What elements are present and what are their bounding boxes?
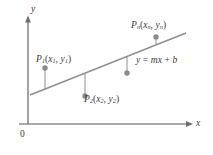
point-label-pn-close-paren: ) — [163, 20, 166, 30]
x-axis-label: x — [196, 119, 200, 129]
regression-line-figure: P1(x1, y1) P2(x2, y2) Pn(xn, yn) y = mx … — [0, 0, 213, 155]
point-label-p2: P2(x2, y2) — [84, 95, 119, 105]
data-point-p1 — [42, 65, 47, 70]
data-point-p3 — [124, 70, 129, 75]
x-axis-arrowhead — [186, 121, 193, 127]
x-axis — [19, 121, 193, 127]
y-axis — [25, 16, 31, 125]
equation-b: b — [173, 55, 178, 65]
origin-label: 0 — [20, 130, 25, 140]
point-label-p2-close-paren: ) — [116, 94, 119, 104]
y-axis-arrowhead — [25, 16, 31, 23]
data-point-pn — [153, 34, 158, 39]
line-equation-label: y = mx + b — [136, 56, 177, 66]
y-axis-label: y — [31, 5, 35, 15]
point-label-pn: Pn(xn, yn) — [131, 21, 166, 31]
point-label-p1: P1(x1, y1) — [36, 55, 71, 65]
point-label-p1-close-paren: ) — [68, 54, 71, 64]
figure-canvas — [0, 0, 213, 155]
equation-m: m — [151, 55, 158, 65]
